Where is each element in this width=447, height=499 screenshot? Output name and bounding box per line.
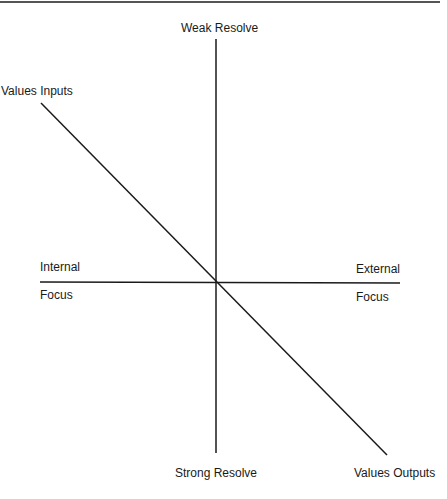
values-inputs-label: Values Inputs	[1, 84, 73, 98]
strong-resolve-label: Strong Resolve	[175, 466, 257, 480]
diagonal-axis	[41, 103, 387, 455]
values-outputs-label: Values Outputs	[354, 466, 435, 480]
internal-focus-label: Focus	[40, 288, 73, 302]
weak-resolve-label: Weak Resolve	[181, 21, 258, 35]
internal-label: Internal	[40, 260, 80, 274]
external-focus-label: Focus	[356, 290, 389, 304]
external-label: External	[356, 262, 400, 276]
axes-graphic	[0, 0, 447, 499]
horizontal-axis	[40, 282, 400, 283]
